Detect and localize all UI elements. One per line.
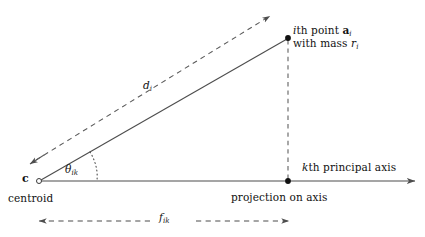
projection-marker-icon <box>285 178 291 184</box>
axis-label-text: th principal axis <box>308 161 396 173</box>
centroid-symbol-label: c <box>22 172 29 186</box>
dimension-subscript: ik <box>163 216 170 225</box>
data-point-label-line2: with mass ri <box>293 37 358 50</box>
distance-subscript: i <box>150 84 152 93</box>
centroid-to-point-line <box>41 39 287 180</box>
principal-axis-label: kth principal axis <box>302 161 396 174</box>
centroid-text-label: centroid <box>8 192 53 205</box>
direction-line-reverse-arrow <box>30 155 44 164</box>
angle-arc <box>90 152 97 180</box>
point-label-mid-text: th point <box>296 24 342 36</box>
mass-label-text: with mass <box>293 37 351 49</box>
distance-label: di <box>143 79 152 92</box>
distance-variable-symbol: d <box>143 79 150 91</box>
data-point-marker-icon <box>285 35 291 41</box>
figure-canvas: ith point ai with mass ri di θik c centr… <box>0 0 425 237</box>
angle-subscript: ik <box>71 168 78 177</box>
data-point-label-line1: ith point ai <box>293 24 352 37</box>
mass-variable-subscript: i <box>356 42 358 51</box>
diagram-svg <box>0 0 425 237</box>
angle-label: θik <box>65 163 78 176</box>
direction-line <box>36 16 270 160</box>
centroid-marker-icon <box>37 179 42 184</box>
projection-text-label: projection on axis <box>231 191 328 204</box>
centroid-vector-symbol: c <box>22 172 29 185</box>
dimension-label: fik <box>159 211 170 224</box>
